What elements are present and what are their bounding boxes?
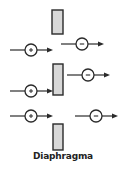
anion-flow [75, 110, 118, 122]
anion-flow [67, 69, 110, 81]
cation-flow [10, 44, 53, 56]
arrow-right-icon [47, 114, 53, 119]
anion-flow [61, 38, 104, 50]
arrow-right-icon [47, 89, 53, 94]
ion-flows [10, 38, 118, 122]
arrow-right-icon [98, 42, 104, 47]
diaphragm-segments [52, 10, 63, 150]
cation-flow [10, 110, 53, 122]
arrow-right-icon [104, 73, 110, 78]
arrow-right-icon [112, 114, 118, 119]
diaphragm-label: Diaphragma [0, 151, 126, 161]
cation-flow [10, 85, 53, 97]
arrow-right-icon [47, 48, 53, 53]
diaphragm-segment [52, 10, 63, 34]
diaphragm-segment [53, 64, 63, 95]
diaphragm-segment [53, 124, 63, 150]
diaphragm-ion-diagram [0, 0, 126, 169]
